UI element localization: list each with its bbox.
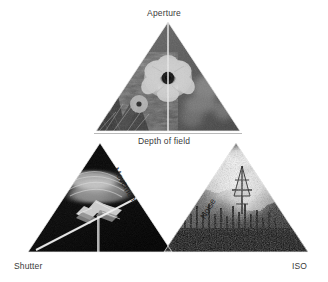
- label-iso: ISO: [292, 262, 307, 271]
- label-aperture: Aperture: [0, 9, 328, 18]
- shutter-panel: [24, 140, 176, 256]
- label-depth-of-field: Depth of field: [0, 137, 328, 146]
- aperture-panel: [90, 18, 246, 136]
- exposure-triangle-figure: Aperture Depth of field Shutter ISO Move…: [0, 0, 328, 282]
- label-shutter: Shutter: [14, 262, 42, 271]
- iso-panel: [160, 140, 312, 256]
